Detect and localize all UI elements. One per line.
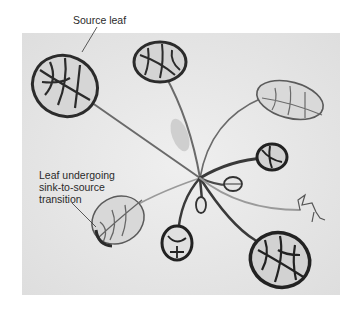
- bottom-center-leaf: [162, 226, 192, 260]
- source-leaf-label: Source leaf: [73, 14, 126, 26]
- transition-label-line3: transition: [39, 193, 115, 205]
- transition-label-line2: sink-to-source: [39, 181, 115, 193]
- tiny-leaf: [196, 197, 206, 213]
- right-middle-leaf: [257, 144, 287, 170]
- upper-leaf: [134, 42, 186, 82]
- transition-leaf-label: Leaf undergoing sink-to-source transitio…: [39, 169, 115, 205]
- transition-label-line1: Leaf undergoing: [39, 169, 115, 181]
- plant-illustration: [0, 0, 357, 311]
